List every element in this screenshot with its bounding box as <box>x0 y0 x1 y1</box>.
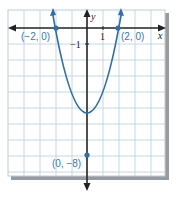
point-neg2-0 <box>53 25 58 30</box>
label-point-2-0: (2, 0) <box>121 31 144 42</box>
point-vertex <box>84 152 89 157</box>
x-axis-label: x <box>157 30 163 41</box>
x-tick-label-1: 1 <box>100 31 105 42</box>
y-tick-label-minus-1: −1 <box>70 39 81 50</box>
y-axis-down-arrow-icon <box>84 183 91 191</box>
y-axis-label: y <box>90 11 96 22</box>
point-2-0 <box>115 25 120 30</box>
label-point-neg2-0: (−2, 0) <box>21 31 50 42</box>
parabola-graph: y x 1 −1 (−2, 0) (2, 0) (0, −8) <box>0 0 177 198</box>
label-point-vertex: (0, −8) <box>52 158 81 169</box>
